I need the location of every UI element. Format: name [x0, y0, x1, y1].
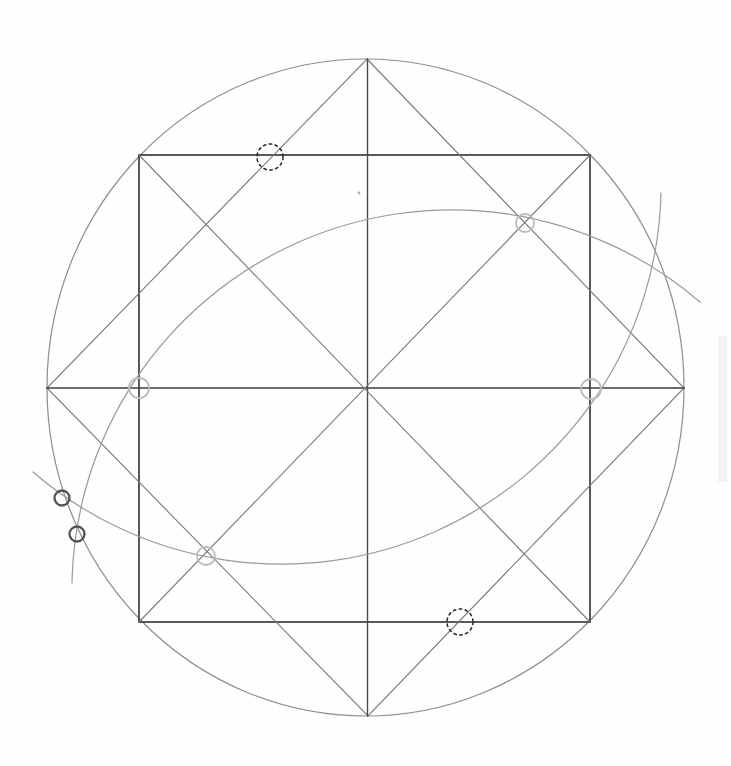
- gray-marker-right-midline: [581, 379, 601, 399]
- dotted-marker-top-edge: [257, 144, 283, 170]
- scanned-drawing-page: [0, 0, 731, 766]
- geometric-construction-canvas: [0, 0, 731, 766]
- construction-arc-lower: [33, 193, 661, 564]
- stray-pencil-dot: [358, 192, 361, 195]
- scan-streak-right-edge: [718, 336, 727, 482]
